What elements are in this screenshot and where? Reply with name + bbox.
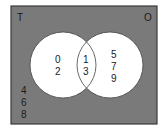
region-left-value: 2	[55, 66, 61, 77]
region-intersection-value: 3	[83, 66, 89, 77]
venn-diagram: T O 0 2 1 3 5 7 9 4 6 8	[0, 0, 168, 130]
region-right-value: 5	[111, 49, 117, 60]
region-right-value: 7	[111, 61, 117, 72]
region-outside-value: 8	[21, 109, 27, 120]
region-left-value: 0	[55, 54, 61, 65]
universe-label-o: O	[144, 12, 152, 23]
universe-label-t: T	[17, 12, 23, 23]
region-outside-value: 4	[21, 85, 27, 96]
region-outside-value: 6	[21, 97, 27, 108]
region-intersection-value: 1	[83, 54, 89, 65]
region-right-value: 9	[111, 73, 117, 84]
